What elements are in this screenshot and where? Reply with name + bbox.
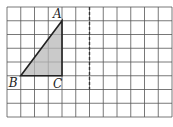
label-a: A: [52, 7, 62, 21]
label-b: B: [8, 76, 18, 90]
label-c: C: [53, 77, 62, 91]
grid-diagram: A B C: [0, 0, 173, 127]
